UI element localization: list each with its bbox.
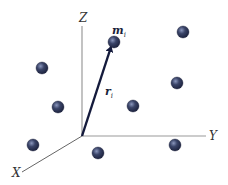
particle <box>177 26 189 38</box>
particle <box>52 101 64 113</box>
mass-label: mi <box>112 24 126 39</box>
y-axis-label: Y <box>209 129 218 143</box>
particle-mass-i <box>108 36 120 48</box>
coordinate-diagram: ZYXrimi <box>0 0 228 185</box>
particle <box>169 139 181 151</box>
particle <box>127 100 139 112</box>
z-axis-label: Z <box>78 11 88 25</box>
position-vector-label: ri <box>105 85 113 100</box>
particle <box>171 77 183 89</box>
particle <box>36 62 48 74</box>
particle <box>27 139 39 151</box>
particle <box>92 147 104 159</box>
x-axis-label: X <box>11 166 21 180</box>
